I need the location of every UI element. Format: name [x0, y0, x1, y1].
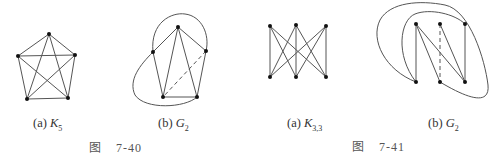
label-g2-fig741: (b) G2 [428, 116, 459, 133]
label-k33: (a) K3,3 [287, 116, 322, 133]
label-subscript: 3,3 [312, 124, 322, 133]
caption-number: 7-41 [379, 140, 405, 154]
caption-fig741: 图7-41 [352, 137, 405, 155]
diagram-canvas [0, 0, 497, 159]
caption-prefix: 图 [352, 140, 365, 154]
caption-number: 7-40 [116, 141, 142, 155]
label-prefix: (a) [287, 116, 301, 130]
graph-k33 [270, 25, 326, 77]
label-prefix: (b) [428, 116, 443, 130]
label-k5: (a) K5 [33, 116, 62, 133]
label-prefix: (b) [158, 116, 173, 130]
label-subscript: 2 [185, 124, 189, 133]
label-prefix: (a) [33, 116, 47, 130]
graph-g2-fig741 [377, 3, 488, 98]
g2-fig740-vertices [151, 25, 208, 99]
graph-k5 [18, 34, 75, 99]
label-symbol: G [176, 116, 185, 130]
label-symbol: G [446, 116, 455, 130]
label-subscript: 2 [455, 124, 459, 133]
caption-fig740: 图7-40 [89, 138, 142, 156]
label-subscript: 5 [58, 124, 62, 133]
caption-prefix: 图 [89, 141, 102, 155]
label-g2-fig740: (b) G2 [158, 116, 189, 133]
graph-g2-fig740 [133, 14, 207, 106]
